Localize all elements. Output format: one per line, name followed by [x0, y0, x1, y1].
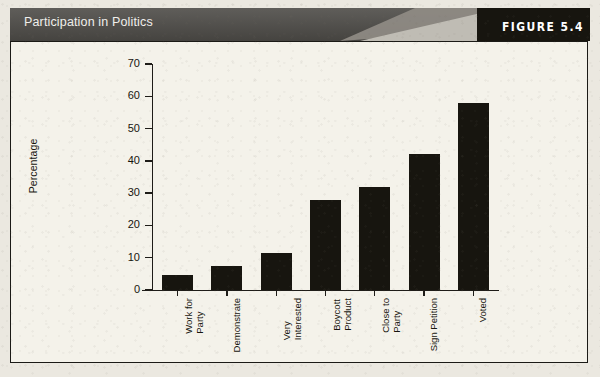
bar — [359, 187, 390, 290]
x-axis-label-line: Demonstrate — [232, 298, 243, 352]
x-axis-tick — [374, 291, 375, 296]
x-axis-tick — [325, 291, 326, 296]
x-axis-label: Sign Petition — [429, 298, 440, 351]
x-axis-label: Voted — [478, 298, 489, 322]
x-axis-tick — [226, 291, 227, 296]
bars-layer — [11, 42, 587, 290]
x-axis-label: Work forParty — [184, 298, 205, 334]
figure-header-band: Participation in Politics FIGURE 5.4 — [10, 8, 590, 41]
x-axis-tick — [276, 291, 277, 296]
chart-panel: Percentage 010203040506070 Work forParty… — [10, 41, 588, 363]
bar — [261, 253, 292, 290]
bar — [162, 275, 193, 290]
figure-number-label: FIGURE 5.4 — [486, 19, 584, 34]
x-axis-label-line: Sign Petition — [429, 298, 440, 351]
x-axis-label: Close toParty — [381, 298, 402, 333]
bar — [211, 266, 242, 290]
figure-title: Participation in Politics — [24, 15, 153, 29]
x-axis-label: VeryInterested — [282, 298, 303, 340]
x-axis-label-line: Boycott — [332, 298, 343, 331]
plot-area: Percentage 010203040506070 Work forParty… — [11, 42, 587, 362]
x-axis-line — [142, 290, 499, 291]
figure-number-notch — [477, 8, 590, 15]
x-axis-label-line: Work for — [184, 298, 195, 334]
bar — [409, 154, 440, 290]
x-axis-label-line: Party — [194, 298, 205, 334]
x-axis-label-line: Close to — [381, 298, 392, 333]
x-axis-label: BoycottProduct — [332, 298, 353, 331]
x-axis-label-line: Party — [391, 298, 402, 333]
x-axis-label: Demonstrate — [232, 298, 243, 352]
x-axis-tick — [177, 291, 178, 296]
x-axis-tick — [423, 291, 424, 296]
bar — [458, 103, 489, 290]
x-axis-label-line: Product — [342, 298, 353, 331]
x-axis-label-line: Interested — [293, 298, 304, 340]
figure-container: Participation in Politics FIGURE 5.4 Per… — [10, 8, 590, 365]
figure-number-bar: FIGURE 5.4 — [477, 8, 590, 41]
x-axis-label-line: Voted — [478, 298, 489, 322]
x-axis-tick — [473, 291, 474, 296]
bar — [310, 200, 341, 290]
